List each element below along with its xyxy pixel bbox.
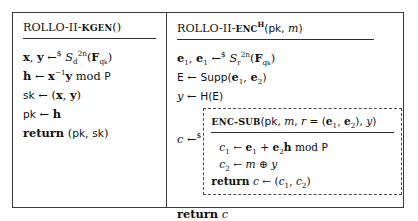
enc-procedure-header: ROLLO-II-ENCH(pk, m) (177, 21, 374, 40)
kgen-line-set-sk: sk ← (x, y) (23, 86, 156, 105)
algorithm-figure-frame: ROLLO-II-KGEN() x, y ←$ Sd2n(Fqk) h ← x−… (12, 12, 404, 208)
enc-sub-line-c2: c2 ← m ⊕ y (211, 156, 394, 173)
enc-line-compute-support: E ← Supp(e1, e2) (177, 68, 402, 87)
kgen-line-return-keys: return (pk, sk) (23, 124, 156, 143)
kgen-line-compute-h: h ← x−1y mod P (23, 67, 156, 86)
enc-sub-dashed-box: ENC-SUB(pk, m, r = (e1, e2), y) c1 ← e1 … (203, 108, 402, 195)
enc-sub-assignment: c ←$ (177, 108, 203, 149)
enc-sub-line-c1: c1 ← e1 + e2h mod P (211, 139, 394, 156)
kgen-procedure-header: ROLLO-II-KGEN() (23, 21, 156, 39)
enc-line-return-c: return c (177, 205, 402, 221)
enc-sub-header: ENC-SUB(pk, m, r = (e1, e2), y) (211, 114, 394, 133)
enc-procedure-column: ROLLO-II-ENCH(pk, m) e1, e1 ←$ Sr2n(Fqk)… (167, 13, 410, 207)
kgen-procedure-column: ROLLO-II-KGEN() x, y ←$ Sd2n(Fqk) h ← x−… (13, 13, 167, 207)
enc-sub-line-return-c-pair: return c ← (c1, c2) (211, 173, 394, 190)
enc-line-sample-e: e1, e1 ←$ Sr2n(Fqk) (177, 49, 402, 68)
enc-sub-invocation-row: c ←$ ENC-SUB(pk, m, r = (e1, e2), y) c1 … (177, 108, 402, 195)
kgen-line-set-pk: pk ← h (23, 105, 156, 124)
enc-line-compute-y: y ← H(E) (177, 87, 402, 106)
kgen-line-sample-xy: x, y ←$ Sd2n(Fqk) (23, 48, 156, 67)
